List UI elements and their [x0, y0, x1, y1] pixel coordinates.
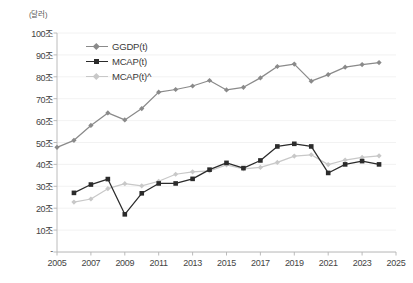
data-point-marker [343, 157, 348, 162]
y-axis-tick-label: 100조 [14, 27, 53, 40]
data-point-marker [71, 199, 76, 204]
data-point-marker [326, 171, 331, 176]
legend-item-ggdp: GGDP(t) [86, 41, 148, 52]
legend-label-mcap: MCAP(t) [112, 56, 147, 67]
data-point-marker [89, 182, 94, 187]
legend-marker-mcap [86, 57, 108, 67]
data-point-marker [106, 177, 111, 182]
data-point-marker [224, 161, 229, 166]
legend-label-ggdp: GGDP(t) [112, 41, 148, 52]
y-axis-tick-label: 20조 [14, 202, 53, 215]
data-point-marker [139, 183, 144, 188]
data-point-marker [343, 162, 348, 167]
data-point-marker [292, 153, 297, 158]
y-axis-tick-label: 30조 [14, 180, 53, 193]
data-point-marker [241, 166, 246, 171]
data-point-marker [376, 153, 381, 158]
y-axis-tick-label: 80조 [14, 71, 53, 84]
y-axis-tick-label: 40조 [14, 158, 53, 171]
data-point-marker [173, 181, 178, 186]
data-point-marker [123, 212, 128, 217]
data-point-marker [190, 177, 195, 182]
data-point-marker [190, 83, 195, 88]
data-point-marker [377, 162, 382, 167]
y-axis-tick-label: 10조 [14, 224, 53, 237]
legend-item-mcap: MCAP(t) [86, 56, 147, 67]
data-point-marker [241, 85, 246, 90]
series-line-mcap-t [74, 144, 379, 215]
y-axis-tick-label: - [14, 246, 53, 256]
data-point-marker [224, 87, 229, 92]
data-point-marker [360, 62, 365, 67]
data-point-marker [207, 78, 212, 83]
legend-marker-ggdp [86, 42, 108, 52]
data-point-marker [173, 87, 178, 92]
data-point-marker [156, 181, 161, 186]
plot-area [0, 0, 413, 283]
data-point-marker [173, 172, 178, 177]
data-point-marker [207, 167, 212, 172]
legend-item-mcap-hat: MCAP(t)^ [86, 71, 151, 82]
data-point-marker [309, 144, 314, 149]
y-axis-tick-label: 70조 [14, 93, 53, 106]
data-point-marker [360, 159, 365, 164]
data-point-marker [122, 181, 127, 186]
data-point-marker [258, 158, 263, 163]
x-axis-tick-label: 2025 [376, 258, 413, 268]
y-axis-tick-label: 50조 [14, 137, 53, 150]
data-point-marker [343, 65, 348, 70]
data-point-marker [376, 60, 381, 65]
legend-label-mcap-hat: MCAP(t)^ [112, 71, 151, 82]
legend-marker-mcap-hat [86, 72, 108, 82]
data-point-marker [139, 191, 144, 196]
data-point-marker [72, 191, 77, 196]
data-point-marker [258, 165, 263, 170]
data-point-marker [292, 142, 297, 147]
data-point-marker [326, 162, 331, 167]
data-point-marker [54, 145, 59, 150]
y-axis-tick-label: 60조 [14, 115, 53, 128]
data-point-marker [190, 169, 195, 174]
data-point-marker [275, 144, 280, 149]
y-axis-tick-label: 90조 [14, 49, 53, 62]
chart-container: (달러) -10조20조30조40조50조60조70조80조90조100조 20… [0, 0, 413, 283]
data-point-marker [309, 152, 314, 157]
